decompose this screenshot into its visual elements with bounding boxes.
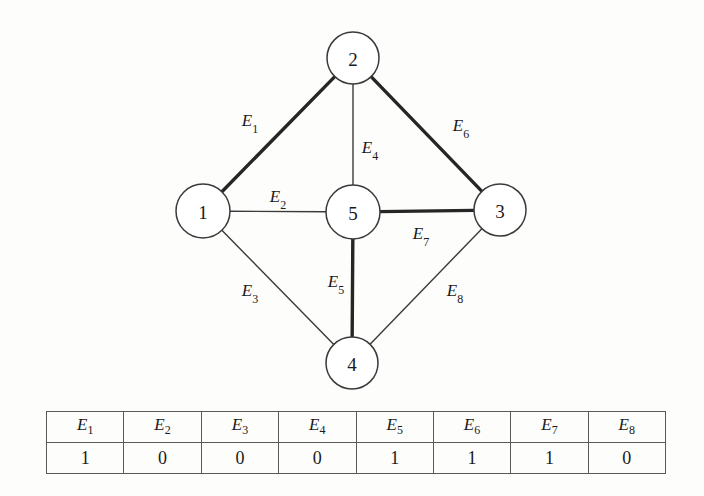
edge-label-e7: E7: [412, 224, 429, 250]
table-value-cell-e7: 1: [511, 443, 588, 474]
graph-edge-e1: [222, 77, 335, 192]
edge-label-e6: E6: [452, 116, 469, 142]
table-value-cell-e8: 0: [588, 443, 665, 474]
node-label-1: 1: [198, 202, 208, 223]
header-base: E: [309, 415, 319, 434]
node-label-2: 2: [348, 49, 358, 70]
graph-edge-e7: [380, 210, 474, 211]
edge-label-e3: E3: [241, 281, 258, 307]
edge-label-e1: E1: [241, 111, 258, 137]
header-subscript: 6: [474, 424, 480, 438]
table-header-cell-e2: E2: [124, 412, 201, 443]
header-subscript: 4: [320, 424, 326, 438]
graph-edge-e2: [230, 211, 326, 212]
table-header-row: E1E2E3E4E5E6E7E8: [47, 412, 666, 443]
header-base: E: [77, 415, 87, 434]
header-base: E: [154, 415, 164, 434]
edge-label-e8: E8: [446, 281, 463, 307]
table-header-cell-e7: E7: [511, 412, 588, 443]
graph-edge-e5: [352, 239, 353, 337]
table-value-cell-e3: 0: [201, 443, 278, 474]
table-header-cell-e3: E3: [201, 412, 278, 443]
header-subscript: 8: [629, 424, 635, 438]
table-value-row: 10001110: [47, 443, 666, 474]
edge-label-e4: E4: [361, 138, 378, 164]
graph-node-2: 2: [327, 32, 379, 84]
graph-node-3: 3: [474, 184, 526, 236]
edge-label-e5: E5: [327, 272, 344, 298]
graph-edge-e3: [222, 230, 334, 344]
header-subscript: 3: [242, 424, 248, 438]
header-subscript: 7: [552, 424, 558, 438]
node-label-5: 5: [348, 203, 358, 224]
graph-node-4: 4: [326, 337, 378, 389]
graph-diagram: 21534 E1E2E3E4E5E6E7E8: [0, 0, 704, 400]
table-value-cell-e4: 0: [279, 443, 356, 474]
figure-container: 21534 E1E2E3E4E5E6E7E8 E1E2E3E4E5E6E7E8 …: [0, 0, 704, 496]
edge-indicator-table: E1E2E3E4E5E6E7E8 10001110: [46, 411, 666, 474]
node-label-3: 3: [495, 201, 505, 222]
graph-node-5: 5: [326, 185, 380, 239]
header-base: E: [619, 415, 629, 434]
edge-label-e2: E2: [269, 187, 286, 213]
node-label-4: 4: [347, 354, 357, 375]
table-header-cell-e1: E1: [47, 412, 124, 443]
table-header-cell-e6: E6: [433, 412, 510, 443]
table-header-cell-e5: E5: [356, 412, 433, 443]
table-header-cell-e8: E8: [588, 412, 665, 443]
graph-node-1: 1: [176, 184, 230, 238]
header-subscript: 1: [87, 424, 93, 438]
table-value-cell-e2: 0: [124, 443, 201, 474]
header-subscript: 2: [165, 424, 171, 438]
header-base: E: [232, 415, 242, 434]
header-base: E: [386, 415, 396, 434]
header-subscript: 5: [397, 424, 403, 438]
header-base: E: [464, 415, 474, 434]
table-header-cell-e4: E4: [279, 412, 356, 443]
header-base: E: [541, 415, 551, 434]
table-value-cell-e1: 1: [47, 443, 124, 474]
table-value-cell-e6: 1: [433, 443, 510, 474]
table-value-cell-e5: 1: [356, 443, 433, 474]
